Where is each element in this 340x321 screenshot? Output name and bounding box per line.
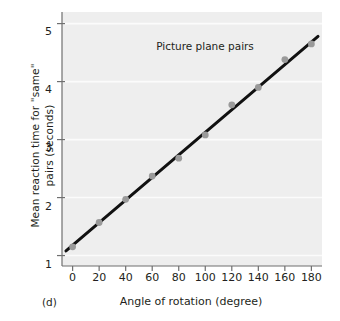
x-tick-label: 160: [270, 272, 300, 283]
x-tick-label: 180: [296, 272, 326, 283]
x-axis-title: Angle of rotation (degree): [62, 296, 320, 308]
data-point: [308, 40, 315, 47]
data-point: [122, 196, 129, 203]
x-tick-label: 40: [111, 272, 141, 283]
data-point: [175, 155, 182, 162]
data-point: [228, 101, 235, 108]
x-tick-label: 140: [243, 272, 273, 283]
plot-annotation-label: Picture plane pairs: [120, 40, 290, 52]
x-tick-label: 60: [137, 272, 167, 283]
data-point: [96, 219, 103, 226]
x-tick-label: 120: [217, 272, 247, 283]
x-tick-label: 0: [58, 272, 88, 283]
x-tick-label: 100: [190, 272, 220, 283]
x-tick-label: 80: [164, 272, 194, 283]
data-point: [202, 132, 209, 139]
data-point: [255, 84, 262, 91]
panel-letter-label: (d): [42, 296, 57, 308]
data-point: [149, 173, 156, 180]
data-point: [281, 56, 288, 63]
data-point: [69, 243, 76, 250]
figure-panel-d: Mean reaction time for "same" pairs (sec…: [0, 0, 340, 321]
x-tick-label: 20: [84, 272, 114, 283]
x-axis-tick-labels: 0 20 40 60 80 100 120 140 160 180: [0, 272, 340, 286]
